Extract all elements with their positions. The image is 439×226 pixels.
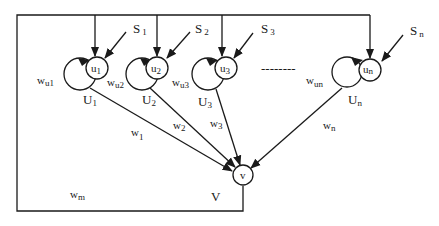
output-label-v: V [211,189,221,204]
svg-text:v: v [240,169,246,181]
svg-text:w1: w1 [131,126,143,142]
input-node-u3: u3 [215,57,237,79]
svg-text:wu2: wu2 [107,76,124,90]
input-node-u2: u2 [146,57,168,79]
svg-text:Un: Un [348,92,362,108]
svg-text:S1: S1 [133,21,147,37]
svg-text:U3: U3 [198,94,212,110]
network-diagram: u1 u2 u3 un v S1 S2 S3 Sn wu1 wu2 wu3 wu… [0,0,439,226]
feedback-weight-label: wm [70,188,85,202]
self-weight-labels: wu1 wu2 wu3 wun [37,74,323,90]
feedback-loop [17,15,370,211]
svg-text:w3: w3 [210,117,223,131]
svg-text:U1: U1 [83,92,97,108]
input-labels: S1 S2 S3 Sn [133,21,424,39]
input-arrow-s3 [234,33,253,58]
input-arrow-s1 [105,32,126,58]
input-arrows [105,32,403,61]
feedback-path [17,15,370,211]
svg-text:S2: S2 [195,21,209,37]
ellipsis: -------- [261,61,296,76]
svg-text:S3: S3 [261,21,275,37]
svg-text:wun: wun [306,74,323,89]
svg-text:wn: wn [323,119,336,133]
svg-text:U2: U2 [142,92,156,108]
output-node-v: v [233,165,253,185]
svg-text:Sn: Sn [410,23,424,39]
svg-text:wu1: wu1 [37,74,54,88]
svg-text:w2: w2 [173,119,185,133]
svg-text:wu3: wu3 [172,76,189,90]
input-arrow-s2 [167,32,190,58]
input-node-un: un [359,59,381,81]
input-node-u1: u1 [86,57,108,79]
weighted-edges [90,88,342,171]
input-arrow-sn [382,35,403,61]
